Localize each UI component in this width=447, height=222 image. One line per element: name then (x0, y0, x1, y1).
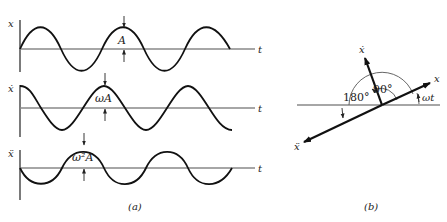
panel-a-caption: (a) (128, 201, 142, 212)
velocity-amplitude-label: ωA (95, 92, 112, 105)
velocity-y-label: ẋ (8, 83, 14, 94)
omega-t-label: ωt (422, 92, 435, 103)
acceleration-plot: ẍ t ω²A (8, 133, 263, 200)
acceleration-phasor (304, 105, 382, 142)
phase-90-label: 90° (373, 83, 393, 96)
omega-t-arrow-icon (418, 94, 419, 102)
velocity-plot: ẋ t ωA (8, 73, 263, 137)
phase-180-label: 180° (343, 91, 370, 104)
panel-b: x ẋ ẍ 90° 180° ωt (b) (294, 44, 440, 212)
panel-b-caption: (b) (364, 201, 378, 212)
acceleration-t-label: t (258, 163, 263, 174)
panel-a: x t A ẋ t ωA ẍ t ω²A (a) (8, 16, 263, 212)
acceleration-y-label: ẍ (8, 148, 14, 159)
displacement-t-label: t (258, 44, 263, 55)
displacement-plot: x t A (8, 16, 263, 72)
acceleration-phasor-label: ẍ (294, 141, 300, 152)
phase-180-arrow-icon (342, 108, 343, 118)
acceleration-amplitude-label: ω²A (72, 151, 93, 164)
displacement-y-label: x (8, 18, 14, 29)
velocity-phasor-label: ẋ (359, 44, 365, 55)
displacement-amplitude-label: A (117, 34, 126, 47)
velocity-t-label: t (258, 103, 263, 114)
displacement-phasor-label: x (434, 73, 440, 84)
harmonic-motion-figure: x t A ẋ t ωA ẍ t ω²A (a) (0, 0, 447, 222)
